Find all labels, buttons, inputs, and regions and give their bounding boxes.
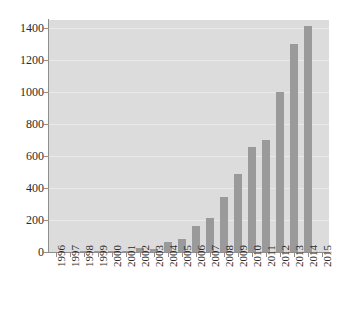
bar-2014 (304, 26, 311, 252)
y-tick-mark (44, 124, 49, 125)
x-label-slot: 2007 (203, 256, 217, 308)
bar-slot (133, 20, 147, 252)
y-tick-mark (44, 252, 49, 253)
bar-slot (273, 20, 287, 252)
x-label-slot: 2004 (161, 256, 175, 308)
x-label-slot: 2002 (133, 256, 147, 308)
bar-chart-figure: 0200400600800100012001400 19961997199819… (0, 0, 350, 310)
bar-slot (175, 20, 189, 252)
x-label-slot: 2009 (231, 256, 245, 308)
bar-slot (287, 20, 301, 252)
bar-slot (217, 20, 231, 252)
bar-slot (315, 20, 329, 252)
bar-slot (147, 20, 161, 252)
x-label-slot: 2008 (217, 256, 231, 308)
x-label-slot: 1996 (49, 256, 63, 308)
x-label-slot: 1998 (77, 256, 91, 308)
bar-slot (49, 20, 63, 252)
x-label-slot: 2000 (105, 256, 119, 308)
bar-slot (77, 20, 91, 252)
bar-slot (63, 20, 77, 252)
x-label-slot: 2014 (301, 256, 315, 308)
bar-slot (161, 20, 175, 252)
y-tick-label-200: 200 (26, 214, 44, 226)
x-label-slot: 2001 (119, 256, 133, 308)
bar-slot (189, 20, 203, 252)
bar-series (49, 20, 329, 252)
bar-2011 (262, 140, 269, 252)
bar-slot (301, 20, 315, 252)
x-label-slot: 1999 (91, 256, 105, 308)
y-tick-label-1000: 1000 (20, 86, 44, 98)
x-label-slot: 2010 (245, 256, 259, 308)
x-label-slot: 1997 (63, 256, 77, 308)
y-axis-line (48, 19, 49, 253)
x-label-slot: 2013 (287, 256, 301, 308)
x-label-slot: 2011 (259, 256, 273, 308)
x-label-slot: 2006 (189, 256, 203, 308)
x-label-slot: 2003 (147, 256, 161, 308)
x-label-slot: 2015 (315, 256, 329, 308)
y-tick-label-0: 0 (38, 246, 44, 258)
x-label-slot: 2012 (273, 256, 287, 308)
bar-slot (231, 20, 245, 252)
bar-2012 (276, 92, 283, 252)
bar-2009 (234, 174, 241, 252)
y-tick-mark (44, 28, 49, 29)
plot-area (49, 20, 329, 252)
y-tick-label-400: 400 (26, 182, 44, 194)
y-tick-label-800: 800 (26, 118, 44, 130)
bar-slot (203, 20, 217, 252)
bar-slot (259, 20, 273, 252)
x-axis-tick-labels: 1996199719981999200020012002200320042005… (49, 256, 329, 308)
bar-slot (245, 20, 259, 252)
bar-2008 (220, 197, 227, 252)
y-tick-mark (44, 60, 49, 61)
bar-slot (105, 20, 119, 252)
x-tick-label-2015: 2015 (322, 245, 333, 267)
x-label-slot: 2005 (175, 256, 189, 308)
y-tick-mark (44, 220, 49, 221)
bar-2013 (290, 44, 297, 252)
y-tick-label-1400: 1400 (20, 22, 44, 34)
y-axis-tick-labels: 0200400600800100012001400 (0, 0, 44, 310)
y-tick-label-600: 600 (26, 150, 44, 162)
bar-2010 (248, 147, 255, 252)
y-tick-mark (44, 156, 49, 157)
y-tick-label-1200: 1200 (20, 54, 44, 66)
y-tick-mark (44, 92, 49, 93)
y-tick-mark (44, 188, 49, 189)
bar-slot (119, 20, 133, 252)
bar-slot (91, 20, 105, 252)
